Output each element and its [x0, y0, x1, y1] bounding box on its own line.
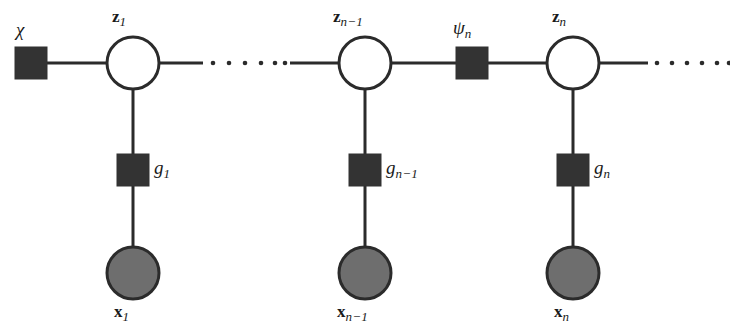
observed-node-x1: [107, 247, 159, 299]
ellipsis-right-dot-0: [655, 61, 660, 66]
factor-node-gn: [557, 154, 589, 186]
latent-node-z1: [107, 37, 159, 89]
observed-node-xn: [547, 247, 599, 299]
observed-label-xn-1: xn−1: [337, 303, 368, 323]
label-subscript: 1: [164, 166, 171, 181]
label-base: g: [386, 157, 396, 178]
latent-node-zn: [547, 37, 599, 89]
ellipsis-middle-dot-0: [211, 61, 216, 66]
ellipsis-middle-dot-5: [283, 61, 288, 66]
latent-label-zn-1: zn−1: [333, 8, 363, 28]
latent-label-z1: z1: [112, 8, 126, 28]
factor-node-chi: [15, 47, 47, 79]
label-base: χ: [16, 19, 24, 40]
ellipsis-middle-dot-2: [243, 61, 248, 66]
label-base: x: [337, 302, 346, 321]
label-base: z: [552, 7, 560, 26]
latent-node-zn-1: [339, 37, 391, 89]
label-subscript: n−1: [346, 309, 368, 324]
latent-label-zn: zn: [552, 8, 566, 28]
label-base: ψ: [453, 17, 465, 38]
factor-graph-canvas: [0, 0, 730, 325]
label-subscript: 1: [123, 309, 130, 324]
factor-node-psin: [456, 47, 488, 79]
label-subscript: n−1: [341, 14, 363, 29]
label-subscript: n−1: [396, 166, 418, 181]
observed-label-x1: x1: [114, 303, 129, 323]
ellipsis-right-dot-1: [670, 61, 675, 66]
factor-label-psin: ψn: [453, 18, 471, 40]
factor-node-g1: [117, 154, 149, 186]
label-base: x: [114, 302, 123, 321]
label-subscript: 1: [120, 14, 127, 29]
label-base: z: [333, 7, 341, 26]
observed-node-xn-1: [339, 247, 391, 299]
label-base: z: [112, 7, 120, 26]
factor-graph-figure: χψng1gn−1gnz1zn−1znx1xn−1xn: [0, 0, 730, 325]
ellipsis-right-dot-3: [700, 61, 705, 66]
factor-label-g1: g1: [154, 158, 170, 180]
label-base: x: [554, 302, 563, 321]
label-base: g: [154, 157, 164, 178]
factor-label-gn: gn: [594, 158, 610, 180]
observed-label-xn: xn: [554, 303, 569, 323]
ellipsis-middle-dot-3: [259, 61, 264, 66]
factor-label-chi: χ: [16, 20, 24, 39]
factor-label-gn-1: gn−1: [386, 158, 418, 180]
ellipsis-middle-dot-4: [273, 61, 278, 66]
label-subscript: n: [560, 14, 567, 29]
ellipsis-middle-dot-1: [227, 61, 232, 66]
label-subscript: n: [563, 309, 570, 324]
ellipsis-right-dot-4: [715, 61, 720, 66]
label-base: g: [594, 157, 604, 178]
node-layer: [15, 37, 599, 299]
label-subscript: n: [465, 26, 472, 41]
label-subscript: n: [604, 166, 611, 181]
ellipsis-right-dot-2: [685, 61, 690, 66]
factor-node-gn-1: [349, 154, 381, 186]
